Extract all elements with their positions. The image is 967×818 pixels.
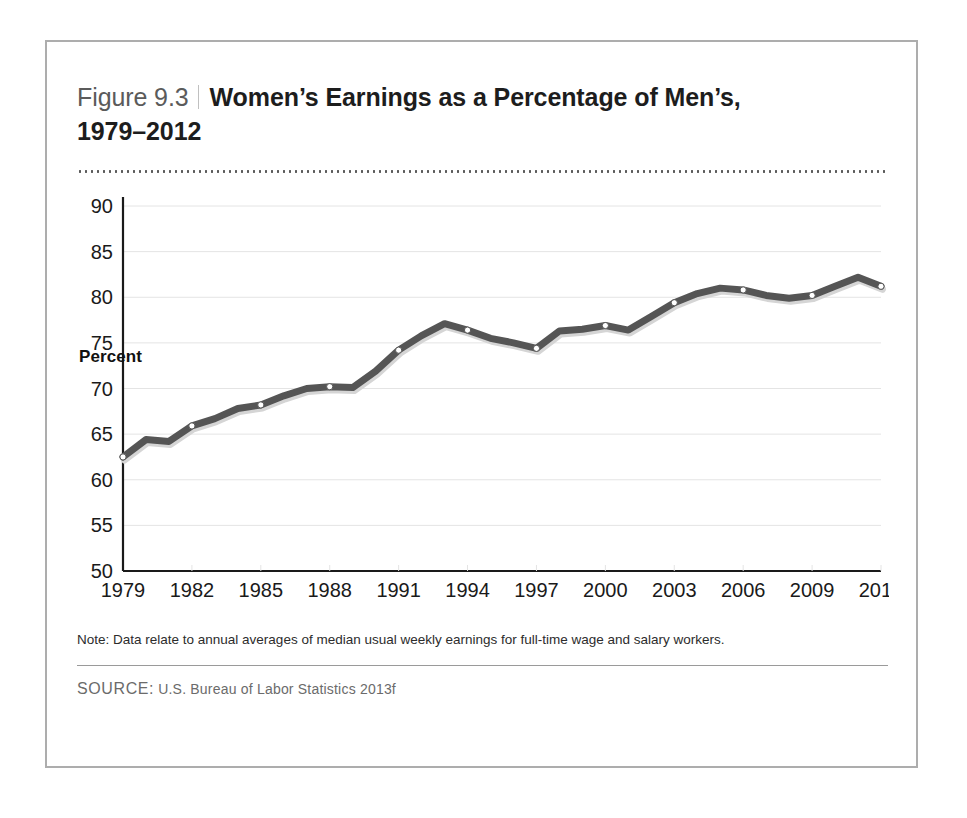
x-tick-label: 1994 — [445, 579, 490, 601]
x-tick-label: 2003 — [652, 579, 697, 601]
figure-content: Figure 9.3Women’s Earnings as a Percenta… — [77, 80, 888, 742]
source-value: U.S. Bureau of Labor Statistics 2013f — [158, 681, 396, 697]
title-dotted-rule — [77, 170, 888, 173]
y-axis-title: Percent — [79, 347, 142, 367]
x-tick-label: 1991 — [376, 579, 421, 601]
data-point-marker — [671, 300, 677, 306]
data-point-marker — [464, 327, 470, 333]
x-tick-label: 1988 — [307, 579, 352, 601]
title-divider — [198, 85, 199, 109]
data-point-marker — [533, 345, 539, 351]
line-chart: 505560657075808590 197919821985198819911… — [77, 195, 889, 615]
note-divider — [77, 665, 888, 666]
grid-lines — [123, 206, 881, 525]
data-point-marker — [878, 283, 884, 289]
data-point-marker — [396, 347, 402, 353]
data-point-marker — [740, 287, 746, 293]
data-point-markers — [120, 283, 884, 460]
y-tick-label: 60 — [91, 469, 113, 491]
figure-source: SOURCE: U.S. Bureau of Labor Statistics … — [77, 680, 888, 698]
source-label: SOURCE: — [77, 680, 154, 697]
data-point-marker — [258, 402, 264, 408]
x-tick-label: 2000 — [583, 579, 628, 601]
x-tick-label: 2006 — [721, 579, 766, 601]
x-tick-label: 1997 — [514, 579, 559, 601]
y-axis-tick-labels: 505560657075808590 — [91, 195, 113, 582]
axis-lines — [123, 197, 881, 571]
figure-number: Figure 9.3 — [77, 83, 189, 111]
x-tick-label: 1979 — [101, 579, 146, 601]
figure-title: Figure 9.3Women’s Earnings as a Percenta… — [77, 80, 777, 148]
x-tick-label: 1985 — [239, 579, 284, 601]
x-tick-label: 2012 — [859, 579, 889, 601]
y-tick-label: 85 — [91, 241, 113, 263]
data-point-marker — [327, 384, 333, 390]
x-axis-tick-labels: 1979198219851988199119941997200020032006… — [101, 579, 889, 601]
data-point-marker — [602, 322, 608, 328]
data-point-marker — [189, 423, 195, 429]
data-point-marker — [120, 454, 126, 460]
data-point-marker — [809, 292, 815, 298]
y-tick-label: 90 — [91, 195, 113, 217]
y-tick-label: 80 — [91, 286, 113, 308]
figure-note: Note: Data relate to annual averages of … — [77, 631, 888, 649]
y-tick-label: 70 — [91, 378, 113, 400]
x-tick-label: 2009 — [790, 579, 835, 601]
x-tick-label: 1982 — [170, 579, 215, 601]
chart-area: Percent 505560657075808590 1979198219851… — [77, 195, 888, 615]
data-line — [123, 277, 881, 457]
figure-frame: Figure 9.3Women’s Earnings as a Percenta… — [45, 40, 918, 768]
y-tick-label: 65 — [91, 423, 113, 445]
y-tick-label: 55 — [91, 514, 113, 536]
data-line-shadow — [125, 280, 883, 460]
